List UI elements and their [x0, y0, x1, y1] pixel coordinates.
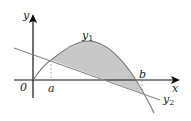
line-y2-label: y2 [162, 93, 174, 107]
x-axis-label: x [172, 82, 179, 95]
area-between-curves-diagram: y x 0 a b y1 y2 [0, 0, 191, 121]
shaded-region [51, 41, 142, 93]
origin-label: 0 [20, 81, 27, 94]
curve-y1-label: y1 [81, 29, 93, 43]
point-b-label: b [139, 68, 146, 81]
point-a-label: a [48, 82, 55, 95]
y-axis-label: y [22, 9, 30, 22]
